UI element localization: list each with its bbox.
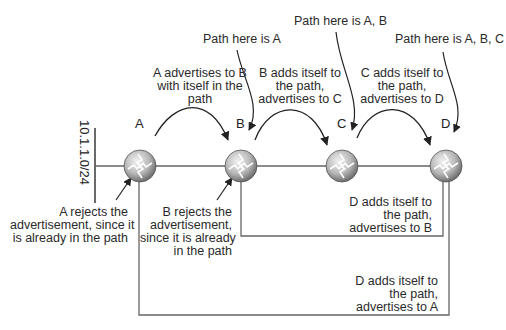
a-to-b-advertise-arrow — [155, 108, 228, 140]
path-at-c-note: Path here is A, B — [294, 15, 387, 28]
c-to-d-note: C adds itself to the path, advertises to… — [352, 67, 452, 106]
bgp-loop-prevention-diagram: 10.1.1.0/24 A B C D Path here is A Path … — [0, 0, 506, 330]
b-reject-pointer — [217, 178, 232, 200]
router-c-label: C — [337, 116, 346, 131]
d-to-b-note: D adds itself to the path, advertises to… — [330, 196, 432, 235]
router-d-label: D — [441, 116, 450, 131]
router-a-label: A — [135, 116, 144, 131]
path-at-b-note: Path here is A — [203, 33, 281, 46]
b-to-c-advertise-arrow — [255, 110, 327, 145]
b-reject-note: B rejects the advertisement, since it is… — [140, 206, 232, 258]
router-a-icon — [124, 150, 156, 182]
path-at-d-note: Path here is A, B, C — [395, 33, 504, 46]
a-to-b-note: A advertises to B with itself in the pat… — [145, 67, 255, 106]
c-to-d-advertise-arrow — [357, 110, 430, 145]
a-reject-pointer — [116, 178, 131, 200]
d-to-a-note: D adds itself to the path, advertises to… — [336, 275, 438, 314]
router-c-icon — [326, 150, 358, 182]
router-b-label: B — [236, 116, 245, 131]
router-d-icon — [430, 150, 462, 182]
b-to-c-note: B adds itself to the path, advertises to… — [250, 67, 350, 106]
router-b-icon — [225, 150, 257, 182]
a-reject-note: A rejects the advertisement, since it is… — [10, 206, 128, 245]
network-label: 10.1.1.0/24 — [77, 120, 92, 185]
